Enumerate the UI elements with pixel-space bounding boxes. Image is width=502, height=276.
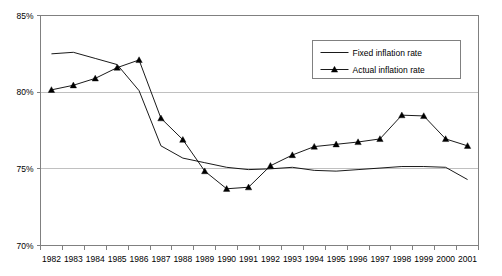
x-axis-tick-label: 1989 [195,254,214,264]
x-axis-tick-label: 1995 [327,254,346,264]
x-axis-tick-label: 1992 [261,254,280,264]
legend-item-label: Actual inflation rate [353,65,426,75]
legend-item-label: Fixed inflation rate [353,48,423,58]
x-axis-tick-label: 1993 [283,254,302,264]
y-axis-tick-label: 80% [16,87,33,97]
x-axis-tick-label: 1996 [349,254,368,264]
x-axis-tick-label: 1986 [130,254,149,264]
y-axis-labels: 85%80%75%70% [16,11,33,251]
data-point-marker [136,57,142,63]
data-point-marker [92,75,98,81]
x-axis-tick-label: 1997 [370,254,389,264]
x-axis-tick-label: 1991 [239,254,258,264]
x-axis-tick-label: 1982 [42,254,61,264]
x-axis-labels: 1982198319841985198619871988198919901991… [42,254,477,264]
gridlines [41,92,479,169]
x-axis-tick-label: 1994 [305,254,324,264]
chart-legend: Fixed inflation rateActual inflation rat… [313,41,461,79]
inflation-rate-chart: 85%80%75%70% 198219831984198519861987198… [0,0,502,276]
x-axis-tick-label: 1998 [392,254,411,264]
x-axis-tick-label: 1983 [64,254,83,264]
x-axis-tick-label: 1985 [108,254,127,264]
y-axis-tick-label: 70% [16,241,33,251]
y-axis-tick-label: 85% [16,11,33,21]
data-point-marker [158,115,164,121]
x-axis-tick-label: 1999 [414,254,433,264]
x-axis-tick-label: 1990 [217,254,236,264]
data-point-marker [267,163,273,169]
x-axis-tick-label: 1988 [173,254,192,264]
data-point-marker [289,152,295,158]
y-axis-tick-label: 75% [16,164,33,174]
y-axis-ticks [37,16,41,246]
x-axis-ticks [41,246,479,250]
x-axis-tick-label: 1984 [86,254,105,264]
chart-canvas: 85%80%75%70% 198219831984198519861987198… [0,0,502,276]
x-axis-tick-label: 2001 [458,254,477,264]
x-axis-tick-label: 2000 [436,254,455,264]
x-axis-tick-label: 1987 [151,254,170,264]
